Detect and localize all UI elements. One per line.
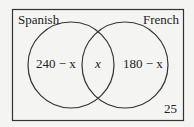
outside-value: 25 bbox=[164, 101, 177, 117]
spanish-label: Spanish bbox=[18, 12, 59, 28]
french-label: French bbox=[143, 12, 179, 28]
spanish-only-value: 240 − x bbox=[36, 56, 76, 72]
intersection-value: x bbox=[95, 56, 101, 72]
french-only-value: 180 − x bbox=[123, 56, 163, 72]
